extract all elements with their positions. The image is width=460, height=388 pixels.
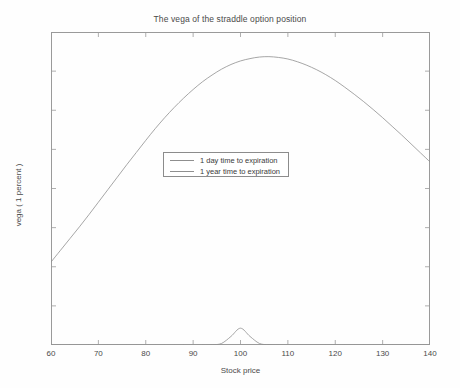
legend-swatch-1-day (170, 160, 194, 161)
x-axis-label: Stock price (51, 366, 430, 375)
plot-area (51, 32, 430, 345)
x-tick-label: 70 (94, 349, 103, 358)
legend-box: 1 day time to expiration 1 year time to … (163, 152, 289, 177)
x-tick-label: 130 (376, 349, 389, 358)
legend-label-1-day: 1 day time to expiration (200, 155, 278, 166)
legend-item: 1 day time to expiration (164, 155, 288, 166)
tick-marks (51, 32, 430, 345)
x-tick-label: 90 (189, 349, 198, 358)
legend-swatch-1-year (170, 171, 194, 172)
x-tick-label: 80 (141, 349, 150, 358)
legend-label-1-year: 1 year time to expiration (200, 166, 280, 177)
figure-canvas: The vega of the straddle option position… (0, 0, 460, 388)
x-tick-label: 60 (47, 349, 56, 358)
x-tick-label: 140 (423, 349, 436, 358)
legend-item: 1 year time to expiration (164, 166, 288, 177)
x-tick-label: 100 (234, 349, 247, 358)
y-axis-label: vega ( 1 percent ) (14, 39, 28, 352)
x-tick-label: 110 (281, 349, 294, 358)
x-tick-label: 120 (329, 349, 342, 358)
plot-title: The vega of the straddle option position (0, 14, 460, 24)
